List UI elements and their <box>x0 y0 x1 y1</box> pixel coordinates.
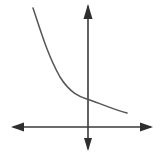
graph-figure <box>0 0 163 160</box>
figure-background <box>0 0 163 160</box>
coordinate-plane-svg <box>0 0 163 160</box>
